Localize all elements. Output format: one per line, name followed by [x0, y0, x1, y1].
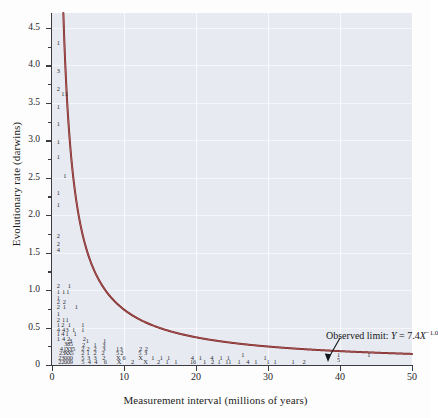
data-point-glyph: 1: [57, 190, 60, 196]
data-point-glyph: 3: [144, 350, 147, 356]
y-axis-tick-label: 0: [35, 360, 40, 370]
data-point-glyph: 1: [57, 40, 60, 46]
y-axis-tick-label: 0.5: [28, 323, 40, 333]
data-point-glyph: 4: [57, 247, 60, 253]
x-axis-tick-label: 10: [104, 372, 144, 382]
x-axis-tick-label: 0: [32, 372, 72, 382]
data-point-glyph: 1: [57, 103, 60, 109]
y-axis-tick: [46, 140, 51, 141]
plot-area: 1321111111112242111112221112111211443111…: [52, 13, 412, 365]
y-axis-tick-label: 2.5: [28, 173, 40, 183]
y-axis-minor-tick: [48, 346, 52, 347]
data-point-glyph: 1: [167, 354, 170, 360]
annotation-equals: = 7.4: [397, 330, 420, 341]
data-point-glyph: 1: [151, 354, 154, 360]
data-point-glyph: 2: [57, 86, 60, 92]
y-axis-tick-label: 4.5: [28, 23, 40, 33]
y-axis-minor-tick: [48, 234, 52, 235]
data-point-glyph: 1: [75, 304, 78, 310]
gridline-vertical: [412, 13, 413, 365]
x-axis-tick-label: 30: [248, 372, 288, 382]
x-axis-tick-label: 50: [392, 372, 432, 382]
data-point-glyph: 1: [57, 202, 60, 208]
curve-layer: [52, 13, 412, 365]
data-point-glyph: 1: [367, 351, 370, 357]
data-point-glyph: 1: [66, 288, 69, 294]
x-axis-tick-label: 20: [176, 372, 216, 382]
y-axis-spine: [51, 13, 52, 366]
annotation-label: Observed limit: Y = 7.4X−1.0: [326, 329, 438, 341]
data-point-glyph: 1: [73, 331, 76, 337]
y-axis-minor-tick: [48, 159, 52, 160]
y-axis-tick: [46, 65, 51, 66]
data-point-glyph: 1: [57, 336, 60, 342]
data-point-glyph: 1: [63, 173, 66, 179]
data-point-glyph: X: [138, 354, 143, 360]
y-axis-minor-tick: [48, 84, 52, 85]
y-axis-title: Evolutionary rate (darwins): [10, 84, 22, 284]
y-axis-minor-tick: [48, 122, 52, 123]
data-point-glyph: 2: [57, 303, 60, 309]
data-point-glyph: 1: [241, 351, 244, 357]
data-point-glyph: 2: [57, 233, 60, 239]
data-point-glyph: 1: [62, 288, 65, 294]
y-axis-tick: [46, 290, 51, 291]
x-axis-title: Measurement interval (millions of years): [0, 394, 431, 406]
y-axis-tick: [46, 328, 51, 329]
y-axis-tick: [46, 215, 51, 216]
y-axis-tick: [46, 253, 51, 254]
data-point-glyph: 3: [57, 68, 60, 74]
y-axis-minor-tick: [48, 309, 52, 310]
data-point-glyph: 1: [81, 327, 84, 333]
y-axis-tick: [46, 178, 51, 179]
y-axis-tick: [46, 365, 51, 366]
data-point-glyph: 1: [63, 303, 66, 309]
y-axis-minor-tick: [48, 196, 52, 197]
data-point-glyph: 1: [86, 338, 89, 344]
data-point-glyph: 1: [57, 154, 60, 160]
x-axis-spine: [51, 365, 413, 366]
y-axis-tick-label: 3.5: [28, 98, 40, 108]
y-axis-tick-label: 1.5: [28, 248, 40, 258]
y-axis-tick-label: 3.0: [28, 135, 40, 145]
data-point-glyph: 1: [65, 91, 68, 97]
annotation-prefix: Observed limit:: [326, 330, 391, 341]
y-axis-minor-tick: [48, 271, 52, 272]
y-axis-tick: [46, 103, 51, 104]
data-point-glyph: 1: [199, 354, 202, 360]
observed-limit-curve: [63, 13, 412, 354]
y-axis-tick-label: 2.0: [28, 210, 40, 220]
data-point-glyph: 1: [57, 139, 60, 145]
annotation-exponent: −1.0: [426, 329, 438, 336]
y-axis-tick: [46, 28, 51, 29]
data-point-glyph: 6: [122, 354, 125, 360]
y-axis-tick-label: 4.0: [28, 60, 40, 70]
data-point-glyph: 1: [57, 121, 60, 127]
data-point-glyph: 1: [160, 354, 163, 360]
y-axis-minor-tick: [48, 47, 52, 48]
y-axis-tick-label: 1.0: [28, 285, 40, 295]
x-axis-tick-label: 40: [320, 372, 360, 382]
